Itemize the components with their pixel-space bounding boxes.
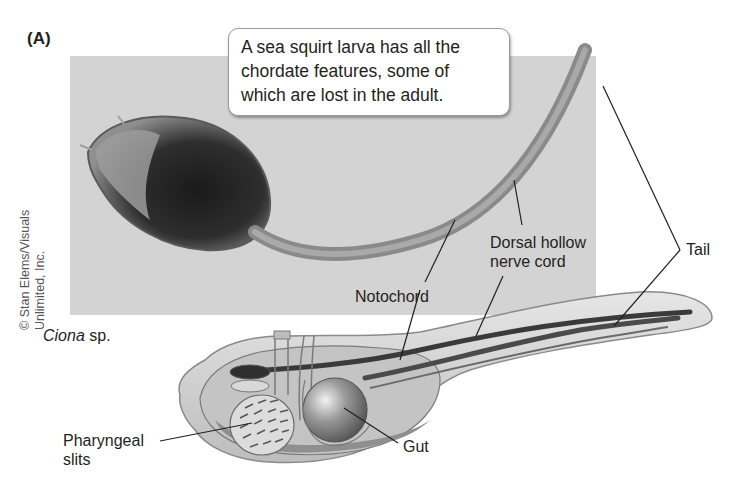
label-nerve-cord-line-1: Dorsal hollow bbox=[490, 233, 586, 252]
photo-credit-line-2: Unlimited, Inc. bbox=[33, 200, 48, 330]
callout-line-1: A sea squirt larva has all the bbox=[241, 35, 497, 59]
larva-diagram bbox=[179, 292, 712, 463]
callout-line-2: chordate features, some of bbox=[241, 59, 497, 83]
larva-body-photo bbox=[80, 116, 270, 250]
callout-line-3: which are lost in the adult. bbox=[241, 83, 497, 107]
label-pharyngeal-line-1: Pharyngeal bbox=[63, 431, 144, 450]
species-genus: Ciona bbox=[43, 327, 85, 344]
label-dorsal-hollow-nerve-cord: Dorsal hollow nerve cord bbox=[490, 233, 586, 271]
label-pharyngeal-slits: Pharyngeal slits bbox=[63, 431, 144, 469]
species-caption: Ciona sp. bbox=[43, 327, 111, 345]
label-gut: Gut bbox=[403, 437, 429, 456]
label-tail: Tail bbox=[686, 240, 710, 259]
label-pharyngeal-line-2: slits bbox=[63, 450, 144, 469]
gut-structure bbox=[303, 378, 367, 442]
photo-credit-line-1: © Stan Elems/Visuals bbox=[18, 200, 33, 330]
callout-box: A sea squirt larva has all the chordate … bbox=[228, 28, 510, 116]
label-nerve-cord-line-2: nerve cord bbox=[490, 252, 586, 271]
species-suffix: sp. bbox=[85, 327, 111, 344]
photo-credit: © Stan Elems/Visuals Unlimited, Inc. bbox=[18, 200, 52, 330]
label-notochord: Notochord bbox=[355, 287, 429, 306]
